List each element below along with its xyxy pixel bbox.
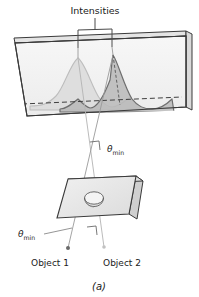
object-1-label: Object 1 xyxy=(31,258,69,268)
theta-lower-leader xyxy=(44,228,72,234)
theta-min-lower-marker xyxy=(44,226,97,235)
theta-min-upper-label: θmin xyxy=(107,144,124,156)
object-sources xyxy=(66,245,106,250)
theta-min-lower-label: θmin xyxy=(18,229,35,241)
right-angle-marker-lower xyxy=(87,226,97,235)
intensities-label: Intensities xyxy=(70,5,119,16)
screen-right-edge xyxy=(186,31,192,110)
figure-container: Intensities θmin xyxy=(0,0,199,297)
aperture-hole-back xyxy=(85,192,104,204)
theta-subscript-upper: min xyxy=(113,149,125,156)
viewing-screen xyxy=(14,31,192,116)
theta-subscript-lower: min xyxy=(24,234,36,241)
object-2-point-icon xyxy=(102,245,106,249)
panel-label: (a) xyxy=(92,281,106,292)
aperture-plate xyxy=(57,176,143,219)
object-1-point-icon xyxy=(66,246,70,250)
rayleigh-criterion-diagram: Intensities θmin xyxy=(0,0,199,297)
object-2-label: Object 2 xyxy=(103,258,141,268)
